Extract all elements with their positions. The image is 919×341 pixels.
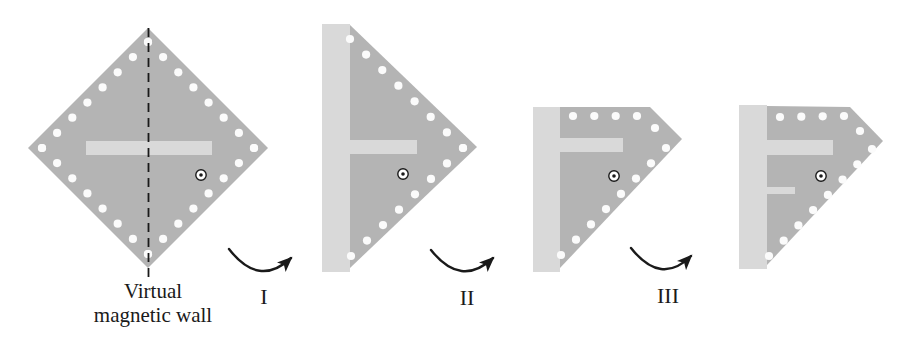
via-hole xyxy=(159,53,167,61)
via-hole xyxy=(53,159,61,167)
via-hole xyxy=(378,66,386,74)
via-hole xyxy=(68,114,76,122)
via-hole xyxy=(220,114,228,122)
radiating-slot xyxy=(560,138,623,152)
via-hole xyxy=(587,220,595,228)
via-hole xyxy=(557,251,565,259)
transform-arrow-step-2 xyxy=(431,250,493,271)
radiating-slot xyxy=(350,140,417,154)
panel-half-cavity xyxy=(322,24,477,272)
antenna-evolution-figure: Virtual magnetic wall I II III xyxy=(0,0,919,341)
secondary-slot xyxy=(767,187,795,194)
via-hole xyxy=(839,176,847,184)
step-label-2: II xyxy=(437,285,497,311)
via-hole xyxy=(114,220,122,228)
via-hole xyxy=(569,112,577,120)
transform-arrow-step-1 xyxy=(229,249,291,271)
open-edge-strip xyxy=(322,24,350,272)
via-hole xyxy=(617,190,625,198)
via-hole xyxy=(395,206,403,214)
via-hole xyxy=(427,175,435,183)
via-hole xyxy=(632,175,640,183)
open-edge-strip xyxy=(533,107,560,272)
via-hole xyxy=(427,113,435,121)
via-hole xyxy=(83,99,91,107)
step-label-3: III xyxy=(638,283,698,309)
via-hole xyxy=(129,235,137,243)
via-hole xyxy=(824,191,832,199)
feed-probe xyxy=(609,171,619,181)
via-hole xyxy=(853,160,861,168)
via-hole xyxy=(363,237,371,245)
via-hole xyxy=(205,189,213,197)
panel-diamond-cavity xyxy=(28,28,268,279)
via-hole xyxy=(250,144,258,152)
via-hole xyxy=(99,205,107,213)
feed-probe xyxy=(398,169,408,179)
via-hole xyxy=(612,112,620,120)
via-hole xyxy=(647,159,655,167)
via-hole xyxy=(443,159,451,167)
via-hole xyxy=(174,68,182,76)
caption-line-2: magnetic wall xyxy=(63,303,243,327)
via-hole xyxy=(99,83,107,91)
step-label-1: I xyxy=(234,284,294,310)
via-hole xyxy=(189,205,197,213)
via-hole xyxy=(362,51,370,59)
feed-probe xyxy=(196,170,206,180)
substrate-body xyxy=(560,107,682,268)
via-hole xyxy=(602,205,610,213)
radiating-slot xyxy=(767,140,833,155)
via-hole xyxy=(780,237,788,245)
via-hole xyxy=(411,190,419,198)
via-hole xyxy=(411,97,419,105)
via-hole xyxy=(189,83,197,91)
via-hole xyxy=(856,127,864,135)
via-hole xyxy=(129,53,137,61)
via-hole xyxy=(235,159,243,167)
via-hole xyxy=(459,144,467,152)
via-hole xyxy=(840,112,848,120)
via-hole xyxy=(776,113,784,121)
via-hole xyxy=(662,144,670,152)
via-hole xyxy=(797,113,805,121)
via-hole xyxy=(235,129,243,137)
open-edge-strip xyxy=(739,105,767,269)
via-hole xyxy=(765,252,773,260)
panel-quarter-cavity xyxy=(533,107,682,272)
via-hole xyxy=(347,252,355,260)
via-hole xyxy=(809,206,817,214)
via-hole xyxy=(379,221,387,229)
transform-arrow-step-3 xyxy=(631,248,691,269)
via-hole xyxy=(633,112,641,120)
via-hole xyxy=(205,99,213,107)
via-hole xyxy=(68,174,76,182)
panel-final-cavity xyxy=(739,105,883,269)
via-hole xyxy=(53,129,61,137)
via-hole xyxy=(819,112,827,120)
via-hole xyxy=(38,144,46,152)
via-hole xyxy=(794,221,802,229)
feed-probe xyxy=(816,171,826,181)
via-hole xyxy=(394,82,402,90)
via-hole xyxy=(220,174,228,182)
via-hole xyxy=(346,35,354,43)
via-hole xyxy=(572,236,580,244)
via-hole xyxy=(174,220,182,228)
virtual-magnetic-wall-caption: Virtual magnetic wall xyxy=(63,279,243,327)
caption-line-1: Virtual xyxy=(63,279,243,303)
via-hole xyxy=(83,189,91,197)
via-hole xyxy=(590,112,598,120)
via-hole xyxy=(651,124,659,132)
via-hole xyxy=(443,128,451,136)
via-hole xyxy=(159,235,167,243)
via-hole xyxy=(868,145,876,153)
via-hole xyxy=(114,68,122,76)
